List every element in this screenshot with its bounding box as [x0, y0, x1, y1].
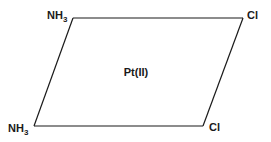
metal-center-label: Pt(II): [124, 66, 149, 78]
edge-right: [203, 18, 243, 126]
edge-left: [34, 18, 73, 126]
ligand-top-left-subscript: 3: [63, 15, 68, 24]
ligand-top-left-base: NH: [47, 9, 63, 21]
ligand-top-left: NH3: [47, 9, 68, 24]
ligand-top-right-base: Cl: [247, 9, 258, 21]
ligand-bottom-left-subscript: 3: [24, 128, 29, 137]
pt-complex-diagram: NH3 Cl NH3 Cl Pt(II): [0, 0, 271, 142]
ligand-top-right: Cl: [247, 9, 258, 21]
ligand-bottom-left: NH3: [8, 122, 29, 137]
ligand-bottom-right: Cl: [209, 121, 220, 133]
ligand-bottom-right-base: Cl: [209, 121, 220, 133]
ligand-bottom-left-base: NH: [8, 122, 24, 134]
